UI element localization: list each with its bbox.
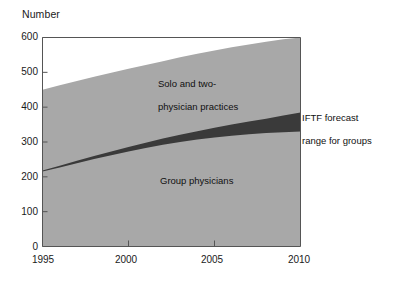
- x-tick-label-2005: 2005: [190, 254, 234, 265]
- y-tick-label-200: 200: [4, 171, 38, 182]
- y-tick-label-300: 300: [4, 136, 38, 147]
- annotation-iftf-line1: IFTF forecast: [302, 112, 358, 123]
- y-tick-label-600: 600: [4, 31, 38, 42]
- annotation-solo-and-two-physician-practices: Solo and two- physician practices: [158, 66, 238, 112]
- y-tick-label-400: 400: [4, 101, 38, 112]
- annotation-group-label: Group physicians: [160, 175, 233, 186]
- annotation-solo-line1: Solo and two-: [158, 78, 216, 89]
- y-tick-label-0: 0: [4, 241, 38, 252]
- y-tick-label-100: 100: [4, 206, 38, 217]
- x-tick-label-1995: 1995: [21, 254, 65, 265]
- annotation-solo-line2: physician practices: [158, 101, 238, 112]
- annotation-group-physicians: Group physicians: [160, 163, 233, 186]
- y-tick-label-500: 500: [4, 66, 38, 77]
- x-tick-label-2010: 2010: [277, 254, 321, 265]
- x-tick-label-2000: 2000: [104, 254, 148, 265]
- annotation-iftf-forecast-range: IFTF forecast range for groups: [302, 100, 372, 146]
- chart-figure: Number 600 500 400 300 200 100 0 1995 20…: [0, 0, 393, 289]
- annotation-iftf-line2: range for groups: [302, 135, 372, 146]
